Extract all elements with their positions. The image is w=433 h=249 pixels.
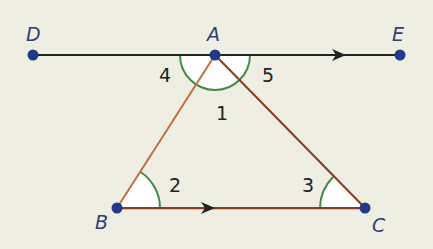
angle-label-3: 3: [302, 174, 314, 196]
angle-label-5: 5: [262, 64, 274, 86]
angle-label-1: 1: [216, 102, 228, 124]
label-c: C: [372, 214, 386, 236]
angle-arc-2: [117, 172, 160, 208]
triangle-diagram: D A E B C 4 5 1 2 3: [0, 0, 433, 249]
point-d: [28, 50, 39, 61]
point-c: [360, 203, 371, 214]
angle-label-4: 4: [159, 64, 171, 86]
label-d: D: [26, 23, 41, 45]
label-b: B: [95, 211, 108, 233]
point-a: [210, 50, 221, 61]
label-a: A: [205, 23, 220, 45]
point-b: [112, 203, 123, 214]
angle-label-2: 2: [169, 174, 181, 196]
label-e: E: [392, 23, 404, 45]
point-e: [395, 50, 406, 61]
side-ac: [215, 55, 365, 208]
angle-arc-3: [320, 177, 365, 208]
